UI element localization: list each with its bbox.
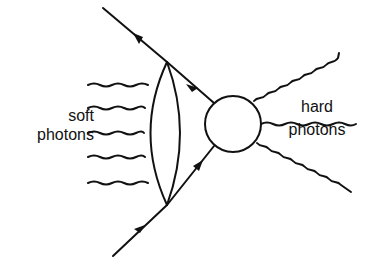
soft-photon-4	[88, 156, 145, 159]
incoming-fermion-line	[113, 205, 167, 256]
soft-label-line2: photons	[32, 125, 94, 144]
arrow-icon	[134, 225, 145, 233]
hard-label-line2: photons	[282, 120, 352, 139]
soft-photon-loop	[151, 62, 181, 205]
arrow-icon	[133, 33, 143, 44]
hard-photon-lower	[257, 143, 351, 192]
outgoing-fermion-line	[103, 8, 167, 62]
soft-photons	[88, 84, 148, 185]
soft-photon-5	[88, 182, 148, 185]
hard-photon-upper	[254, 53, 339, 101]
soft-photon-3	[88, 132, 144, 135]
interaction-blob	[205, 96, 261, 152]
soft-photons-label: soft photons	[32, 106, 94, 144]
hard-label-line1: hard	[282, 97, 352, 116]
hard-photons-label: hard photons	[282, 97, 352, 139]
soft-photon-1	[88, 84, 148, 87]
soft-label-line1: soft	[32, 106, 94, 125]
internal-fermion-lower	[167, 146, 214, 205]
soft-photon-2	[88, 107, 145, 110]
arrow-icon	[186, 84, 198, 92]
